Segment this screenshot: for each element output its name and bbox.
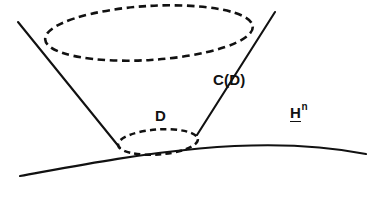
top-rim-dashed-ellipse bbox=[44, 0, 255, 66]
hyperbolic-space-curve bbox=[20, 145, 366, 176]
geometry-drawing bbox=[0, 0, 384, 197]
label-disk-d: D bbox=[155, 108, 166, 123]
label-hyperbolic-space-base: H bbox=[290, 105, 301, 122]
label-hyperbolic-space: Hn bbox=[290, 104, 307, 122]
label-cone-cd: C(D) bbox=[213, 72, 245, 87]
figure-canvas: C(D) D Hn bbox=[0, 0, 384, 197]
left-cone-generator-line bbox=[18, 22, 120, 148]
label-hyperbolic-space-exponent: n bbox=[302, 102, 308, 112]
